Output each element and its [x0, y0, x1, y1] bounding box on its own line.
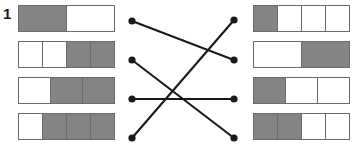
left-bar-column — [18, 0, 128, 157]
connector-dot-right-1[interactable] — [230, 16, 237, 23]
fraction-bar-left-1[interactable] — [18, 5, 115, 32]
connector-dot-left-1[interactable] — [128, 17, 135, 24]
bar-cell-filled — [83, 78, 114, 103]
bar-cell-filled — [302, 42, 349, 67]
bar-cell-empty — [302, 114, 326, 139]
bar-cell-filled — [278, 114, 302, 139]
fraction-bar-left-4[interactable] — [18, 113, 115, 140]
connector-dot-left-4[interactable] — [128, 134, 135, 141]
bar-cell-empty — [318, 78, 349, 103]
bar-cell-filled — [254, 114, 278, 139]
bar-cell-filled — [67, 114, 91, 139]
fraction-bar-left-2[interactable] — [18, 41, 115, 68]
bar-cell-filled — [43, 114, 67, 139]
bar-cell-filled — [254, 6, 278, 31]
connector-dot-left-3[interactable] — [128, 95, 135, 102]
fraction-bar-right-1[interactable] — [253, 5, 350, 32]
bar-cell-filled — [51, 78, 83, 103]
fraction-bar-right-2[interactable] — [253, 41, 350, 68]
bar-cell-empty — [286, 78, 318, 103]
bar-cell-empty — [19, 114, 43, 139]
matching-worksheet: 1 — [0, 0, 353, 157]
bar-cell-filled — [254, 78, 286, 103]
bar-cell-filled — [91, 42, 114, 67]
bar-cell-empty — [302, 6, 326, 31]
fraction-bar-left-3[interactable] — [18, 77, 115, 104]
bar-cell-empty — [67, 6, 114, 31]
connector-dot-right-3[interactable] — [230, 95, 237, 102]
connector-line-1[interactable] — [132, 21, 234, 60]
connector-line-2[interactable] — [132, 60, 234, 138]
bar-cell-empty — [326, 6, 349, 31]
connector-dot-left-2[interactable] — [128, 56, 135, 63]
bar-cell-empty — [254, 42, 302, 67]
bar-cell-empty — [43, 42, 67, 67]
item-number: 1 — [3, 6, 11, 21]
bar-cell-filled — [67, 42, 91, 67]
bar-cell-filled — [19, 6, 67, 31]
fraction-bar-right-3[interactable] — [253, 77, 350, 104]
connector-dot-right-4[interactable] — [230, 134, 237, 141]
bar-cell-empty — [326, 114, 349, 139]
connector-dot-right-2[interactable] — [230, 56, 237, 63]
bar-cell-empty — [19, 42, 43, 67]
fraction-bar-right-4[interactable] — [253, 113, 350, 140]
bar-cell-empty — [278, 6, 302, 31]
right-bar-column — [253, 0, 353, 157]
bar-cell-empty — [19, 78, 51, 103]
connector-line-4[interactable] — [132, 20, 234, 138]
bar-cell-filled — [91, 114, 114, 139]
